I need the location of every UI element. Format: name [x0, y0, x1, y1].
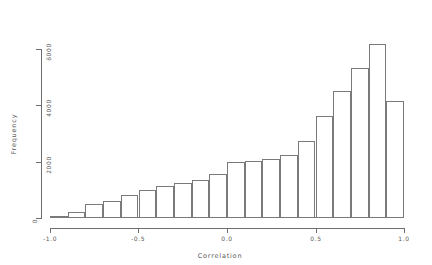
y-tick-label-2000: 2000 [46, 156, 52, 174]
histogram-bar [369, 44, 387, 218]
x-tick-0 [227, 228, 228, 233]
x-tick-label-neg1: -1.0 [43, 236, 57, 242]
y-tick-4000 [36, 105, 41, 106]
histogram-plot: 6000 4000 2000 0 -1.0 -0.5 0.0 0.5 1.0 C… [0, 0, 432, 265]
histogram-bar [227, 162, 245, 218]
histogram-bar [262, 159, 280, 218]
y-tick-label-6000: 6000 [46, 43, 52, 61]
bars-baseline [50, 217, 404, 218]
histogram-bar [298, 141, 316, 218]
histogram-bar [280, 155, 298, 218]
x-tick-label-1: 1.0 [398, 236, 409, 242]
histogram-bar [85, 204, 103, 218]
y-tick-label-0: 0 [32, 219, 38, 223]
y-axis-line [41, 49, 42, 219]
histogram-bar [103, 201, 121, 218]
x-tick-label-0-5: 0.5 [310, 236, 321, 242]
histogram-bar [316, 116, 334, 218]
x-axis-title: Correlation [198, 253, 243, 260]
y-tick-2000 [36, 162, 41, 163]
histogram-bar [333, 91, 351, 218]
x-tick-0-5 [316, 228, 317, 233]
bars-layer [0, 0, 432, 265]
x-tick-1 [404, 228, 405, 233]
histogram-bar [139, 190, 157, 218]
y-tick-6000 [36, 49, 41, 50]
x-tick-neg1 [50, 228, 51, 233]
histogram-bar [121, 195, 139, 218]
x-tick-neg0-5 [138, 228, 139, 233]
histogram-bar [245, 161, 263, 218]
histogram-bar [351, 68, 369, 218]
histogram-bar [174, 183, 192, 218]
y-axis-title: Frequency [11, 115, 18, 155]
y-tick-label-4000: 4000 [46, 99, 52, 117]
x-tick-label-neg0-5: -0.5 [131, 236, 145, 242]
histogram-bar [156, 186, 174, 218]
histogram-bar [192, 180, 210, 218]
histogram-bar [209, 174, 227, 218]
histogram-bar [386, 101, 404, 218]
x-tick-label-0: 0.0 [221, 236, 232, 242]
